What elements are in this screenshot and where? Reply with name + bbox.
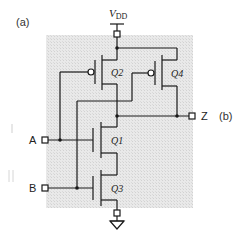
input-a-terminal[interactable] bbox=[42, 137, 48, 143]
circuit-diagram: (a) (b) VDD A B Z Q2 Q4 Q1 Q3 bbox=[0, 0, 247, 236]
vdd-label-sub: DD bbox=[116, 12, 128, 21]
junction-dot-vdd bbox=[115, 46, 119, 50]
q4-label: Q4 bbox=[171, 68, 183, 79]
junction-dot-q4-out bbox=[175, 114, 179, 118]
vdd-terminal[interactable] bbox=[114, 31, 120, 37]
input-b-label: B bbox=[29, 182, 36, 194]
output-z-terminal[interactable] bbox=[189, 113, 195, 119]
junction-dot-output bbox=[115, 114, 119, 118]
ground-icon bbox=[110, 221, 124, 229]
q4-gate-bubble bbox=[148, 70, 154, 76]
junction-dot-a bbox=[58, 138, 62, 142]
vdd-label: VDD bbox=[109, 7, 128, 21]
q3-label: Q3 bbox=[111, 183, 123, 194]
q2-gate-bubble bbox=[88, 69, 94, 75]
panel-label-a: (a) bbox=[16, 16, 29, 28]
input-b-terminal[interactable] bbox=[42, 185, 48, 191]
junction-dot-b bbox=[75, 186, 79, 190]
output-z-label: Z bbox=[201, 110, 208, 122]
ground-terminal[interactable] bbox=[114, 210, 120, 216]
panel-label-b: (b) bbox=[219, 110, 232, 122]
q2-label: Q2 bbox=[111, 67, 123, 78]
input-a-label: A bbox=[29, 134, 37, 146]
q1-label: Q1 bbox=[111, 135, 123, 146]
